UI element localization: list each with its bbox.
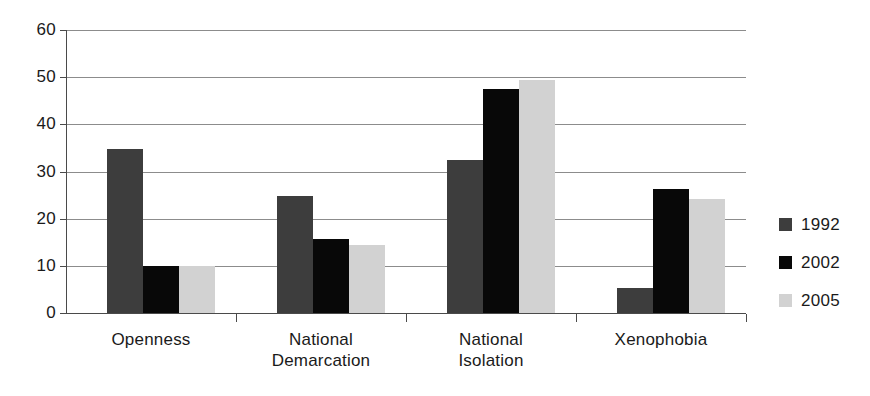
- y-tick-label-20: 20: [4, 210, 56, 227]
- x-tick-3: [576, 314, 577, 322]
- y-tick-label-10: 10: [4, 257, 56, 274]
- legend-item-2005[interactable]: 2005: [779, 281, 865, 319]
- legend-item-2002[interactable]: 2002: [779, 243, 865, 281]
- y-tick-label-30: 30: [4, 163, 56, 180]
- bar-national-isolation-2005: [519, 80, 555, 313]
- bar-national-demarcation-1992: [277, 196, 313, 313]
- y-tick-10: [60, 266, 67, 267]
- legend-label-1992: 1992: [801, 216, 840, 233]
- legend-swatch-1992-icon: [779, 218, 792, 231]
- bar-national-demarcation-2005: [349, 245, 385, 313]
- x-axis-label-openness: Openness: [66, 329, 236, 350]
- y-tick-label-40: 40: [4, 115, 56, 132]
- bar-chart-figure: 0102030405060 1992 2002 2005 OpennessNat…: [0, 0, 870, 396]
- y-tick-label-50: 50: [4, 68, 56, 85]
- y-tick-40: [60, 124, 67, 125]
- y-axis-labels: 0102030405060: [0, 0, 56, 396]
- y-tick-label-0: 0: [4, 304, 56, 321]
- x-axis-label-line: Isolation: [406, 350, 576, 371]
- x-axis-label-line: Openness: [111, 330, 190, 349]
- y-tick-50: [60, 77, 67, 78]
- x-axis-label-line: Demarcation: [236, 350, 406, 371]
- plot-area: [66, 30, 746, 313]
- x-tick-2: [406, 314, 407, 322]
- x-tick-4: [746, 314, 747, 322]
- bar-xenophobia-2005: [689, 199, 725, 313]
- x-axis-label-national-demarcation: NationalDemarcation: [236, 329, 406, 371]
- legend-item-1992[interactable]: 1992: [779, 205, 865, 243]
- legend-swatch-2002-icon: [779, 256, 792, 269]
- x-axis-label-line: National: [289, 330, 353, 349]
- x-axis-label-xenophobia: Xenophobia: [576, 329, 746, 350]
- bar-xenophobia-2002: [653, 189, 689, 313]
- x-axis-label-national-isolation: NationalIsolation: [406, 329, 576, 371]
- bar-national-isolation-1992: [447, 160, 483, 313]
- x-axis-label-line: National: [459, 330, 523, 349]
- legend-label-2005: 2005: [801, 292, 840, 309]
- bars-layer: [66, 30, 746, 313]
- y-tick-60: [60, 30, 67, 31]
- bar-openness-2005: [179, 266, 215, 313]
- y-tick-30: [60, 172, 67, 173]
- bar-openness-1992: [107, 149, 143, 313]
- bar-national-isolation-2002: [483, 89, 519, 313]
- y-tick-label-60: 60: [4, 21, 56, 38]
- bar-xenophobia-1992: [617, 288, 653, 313]
- legend-swatch-2005-icon: [779, 294, 792, 307]
- x-axis-line: [66, 313, 746, 314]
- bar-openness-2002: [143, 266, 179, 313]
- bar-national-demarcation-2002: [313, 239, 349, 313]
- y-tick-20: [60, 219, 67, 220]
- chart-legend: 1992 2002 2005: [779, 205, 865, 319]
- x-tick-1: [236, 314, 237, 322]
- legend-label-2002: 2002: [801, 254, 840, 271]
- x-axis-label-line: Xenophobia: [615, 330, 708, 349]
